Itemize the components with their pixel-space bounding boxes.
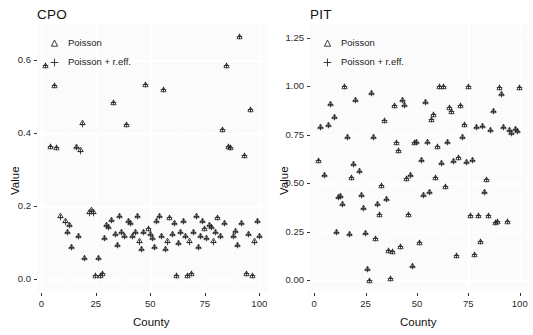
plus-icon (48, 55, 61, 68)
data-point (79, 121, 86, 128)
plus-icon (321, 55, 334, 68)
data-point (110, 99, 117, 106)
data-point (173, 272, 180, 279)
data-point (360, 205, 367, 212)
data-point (68, 244, 75, 251)
x-tick-mark (417, 293, 418, 296)
data-point (134, 213, 141, 220)
data-point (223, 62, 230, 69)
data-point (195, 244, 202, 251)
data-point (241, 152, 248, 159)
x-tick-label: 50 (130, 298, 170, 309)
data-point (393, 139, 400, 146)
data-point (77, 148, 84, 155)
y-tick-mark (34, 206, 37, 207)
y-tick-label: 0.0 (0, 273, 31, 284)
data-point (477, 238, 484, 245)
x-tick-label: 75 (185, 298, 225, 309)
data-point (327, 101, 334, 108)
y-tick-label: 0.4 (0, 127, 31, 138)
x-axis-label-cpo: County (133, 316, 169, 328)
data-point (116, 213, 123, 220)
data-point (162, 246, 169, 253)
data-point (444, 139, 451, 146)
data-point (418, 157, 425, 164)
data-point (238, 220, 245, 227)
data-point (358, 192, 365, 199)
gridline-major-horizontal (37, 206, 268, 207)
y-tick-mark (307, 280, 310, 281)
data-point (101, 235, 108, 242)
x-tick-mark (259, 293, 260, 296)
data-point (256, 233, 263, 240)
data-point (481, 189, 488, 196)
x-tick-mark (96, 293, 97, 296)
legend-label-poisson: Poisson (341, 37, 375, 48)
data-point (227, 144, 234, 151)
data-point (352, 97, 359, 104)
figure-root: CPO Value County 0.00.20.40.60255075100 … (0, 0, 533, 335)
data-point (383, 196, 390, 203)
data-point (175, 240, 182, 247)
data-point (333, 229, 340, 236)
gridline-major-horizontal (310, 232, 528, 233)
data-point (498, 91, 505, 98)
data-point (53, 144, 60, 151)
y-tick-mark (307, 232, 310, 233)
y-tick-mark (307, 86, 310, 87)
data-point (364, 266, 371, 273)
gridline-major-horizontal (37, 279, 268, 280)
data-point (356, 168, 363, 175)
data-point (467, 212, 474, 219)
data-point (490, 108, 497, 115)
data-point (374, 201, 381, 208)
y-tick-mark (307, 38, 310, 39)
data-point (169, 231, 176, 238)
x-tick-mark (520, 293, 521, 296)
x-tick-mark (314, 293, 315, 296)
data-point (217, 233, 224, 240)
x-tick-label: 50 (397, 298, 437, 309)
data-point (405, 211, 412, 218)
y-tick-mark (34, 60, 37, 61)
y-tick-mark (307, 135, 310, 136)
y-tick-label: 0.6 (0, 54, 31, 65)
facet-panel-cpo: CPO Value County 0.00.20.40.60255075100 … (0, 0, 270, 335)
data-point (219, 126, 226, 133)
data-point (494, 218, 501, 225)
data-point (95, 255, 102, 262)
triangle-icon (48, 36, 61, 49)
data-point (483, 176, 490, 183)
data-point (424, 139, 431, 146)
data-point (391, 102, 398, 109)
legend-label-poisson-reff: Poisson + r.eff. (68, 56, 131, 67)
y-tick-label: 0.50 (272, 177, 304, 188)
data-point (114, 242, 121, 249)
y-tick-mark (34, 133, 37, 134)
data-point (344, 134, 351, 141)
gridline-minor-horizontal (37, 170, 268, 171)
data-point (105, 224, 112, 231)
gridline-major-horizontal (310, 183, 528, 184)
data-point (409, 263, 416, 270)
data-point (136, 239, 143, 246)
data-point (127, 220, 134, 227)
facet-title-cpo: CPO (37, 7, 67, 22)
data-point (372, 235, 379, 242)
legend-label-poisson: Poisson (68, 37, 102, 48)
data-point (362, 230, 369, 237)
gridline-major-vertical (150, 24, 151, 292)
x-tick-label: 0 (21, 298, 61, 309)
data-point (156, 213, 163, 220)
x-tick-mark (205, 293, 206, 296)
data-point (188, 270, 195, 277)
data-point (455, 154, 462, 161)
data-point (317, 124, 324, 131)
data-point (221, 220, 228, 227)
data-point (389, 248, 396, 255)
data-point (132, 229, 139, 236)
data-point (416, 239, 423, 246)
data-point (504, 218, 511, 225)
data-point (422, 99, 429, 106)
data-point (378, 182, 385, 189)
